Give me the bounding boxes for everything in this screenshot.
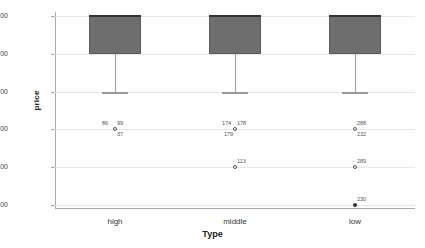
y-tick-label: 4.00 bbox=[0, 125, 8, 132]
outlier-label-37: 37 bbox=[117, 132, 123, 138]
outlier-point-middle-4 bbox=[233, 127, 237, 131]
plot-area: 2.003.004.005.006.007.00 869937174178179… bbox=[55, 12, 415, 209]
x-axis-title: Type bbox=[0, 229, 425, 239]
whisker-lower-middle bbox=[235, 54, 236, 92]
outlier-label-230: 230 bbox=[357, 197, 366, 203]
median-line-middle bbox=[209, 15, 261, 17]
median-line-low bbox=[329, 15, 381, 17]
x-tick-label-low: low bbox=[310, 217, 400, 226]
y-tick-label: 7.00 bbox=[0, 12, 8, 19]
y-tick-mark bbox=[51, 129, 55, 130]
outlier-label-99: 99 bbox=[117, 121, 123, 127]
y-axis-line bbox=[55, 12, 56, 209]
y-tick-label: 3.00 bbox=[0, 163, 8, 170]
outlier-point-low-2 bbox=[353, 203, 357, 207]
whisker-lower-high bbox=[115, 54, 116, 92]
outlier-label-179: 179 bbox=[224, 132, 233, 138]
whisker-cap-high bbox=[102, 92, 128, 94]
y-axis-title: price bbox=[32, 71, 41, 131]
gridline bbox=[55, 205, 415, 206]
y-tick-mark bbox=[51, 92, 55, 93]
y-tick-mark bbox=[51, 205, 55, 206]
whisker-lower-low bbox=[355, 54, 356, 92]
y-tick-label: 2.00 bbox=[0, 201, 8, 208]
x-axis-line bbox=[55, 208, 415, 209]
y-tick-label: 5.00 bbox=[0, 88, 8, 95]
y-tick-mark bbox=[51, 167, 55, 168]
whisker-cap-middle bbox=[222, 92, 248, 94]
y-tick-mark bbox=[51, 16, 55, 17]
outlier-label-232: 232 bbox=[357, 132, 366, 138]
box-low bbox=[329, 16, 381, 54]
outlier-point-middle-3 bbox=[233, 165, 237, 169]
box-middle bbox=[209, 16, 261, 54]
x-tick-label-middle: middle bbox=[190, 217, 280, 226]
x-tick-label-high: high bbox=[70, 217, 160, 226]
outlier-label-178: 178 bbox=[237, 121, 246, 127]
outlier-label-113: 113 bbox=[237, 159, 246, 165]
whisker-cap-low bbox=[342, 92, 368, 94]
box-high bbox=[89, 16, 141, 54]
boxplot-chart: price 2.003.004.005.006.007.00 869937174… bbox=[0, 0, 425, 248]
y-tick-label: 6.00 bbox=[0, 50, 8, 57]
outlier-point-low-3 bbox=[353, 165, 357, 169]
outlier-label-86: 86 bbox=[102, 121, 108, 127]
y-tick-mark bbox=[51, 54, 55, 55]
outlier-label-289: 289 bbox=[357, 159, 366, 165]
outlier-label-174: 174 bbox=[222, 121, 231, 127]
median-line-high bbox=[89, 15, 141, 17]
outlier-label-288: 288 bbox=[357, 121, 366, 127]
